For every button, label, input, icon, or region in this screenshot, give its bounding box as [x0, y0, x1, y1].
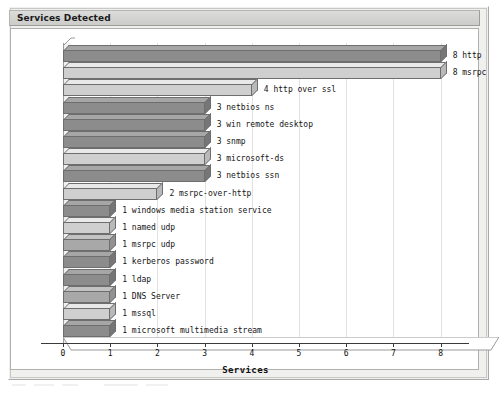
bar-side-facet	[110, 250, 116, 268]
bar-value-label: 3 snmp	[217, 136, 246, 148]
bar-row[interactable]: 3 netbios ns	[63, 97, 463, 114]
x-tick-label-6: 6	[336, 348, 356, 359]
bar-row[interactable]: 1 microsoft multimedia stream	[63, 320, 463, 337]
bar-value-label: 2 msrpc-over-http	[169, 188, 251, 200]
bar[interactable]	[63, 320, 110, 332]
page-title: Services Detected	[17, 12, 111, 25]
x-tick-6	[346, 343, 347, 347]
bar-value-label: 8 msrpc	[453, 67, 487, 79]
bar-front-facet	[63, 308, 110, 320]
bar[interactable]	[63, 183, 157, 195]
bar-value-label: 3 netbios ssn	[217, 170, 280, 182]
bar-front-facet	[63, 170, 205, 182]
bar[interactable]	[63, 45, 441, 57]
bar-value-label: 1 ldap	[122, 274, 151, 286]
bar-row[interactable]: 2 msrpc-over-http	[63, 183, 463, 200]
x-tick-label-3: 3	[195, 348, 215, 359]
bar-front-facet	[63, 50, 441, 62]
plot-area: 8 http8 msrpc4 http over ssl3 netbios ns…	[41, 37, 469, 347]
bar-value-label: 3 microsoft-ds	[217, 153, 284, 165]
bar[interactable]	[63, 286, 110, 298]
bar-value-label: 1 microsoft multimedia stream	[122, 325, 262, 337]
x-tick-2	[157, 343, 158, 347]
bar-value-label: 3 win remote desktop	[217, 119, 313, 131]
bar[interactable]	[63, 200, 110, 212]
bar-front-facet	[63, 205, 110, 217]
x-tick-label-5: 5	[289, 348, 309, 359]
bar[interactable]	[63, 269, 110, 281]
x-tick-label-7: 7	[383, 348, 403, 359]
bar-value-label: 4 http over ssl	[264, 84, 336, 96]
bar-front-facet	[63, 291, 110, 303]
bar-value-label: 1 named udp	[122, 222, 175, 234]
bar-row[interactable]: 3 win remote desktop	[63, 114, 463, 131]
bar[interactable]	[63, 148, 205, 160]
bar-front-facet	[63, 119, 205, 131]
bar-row[interactable]: 3 microsoft-ds	[63, 148, 463, 165]
x-tick-0	[63, 343, 64, 347]
x-tick-3	[205, 343, 206, 347]
bar-front-facet	[63, 188, 157, 200]
bar-value-label: 1 kerberos password	[122, 256, 214, 268]
bar[interactable]	[63, 234, 110, 246]
bar[interactable]	[63, 62, 441, 74]
bar-row[interactable]: 1 ldap	[63, 269, 463, 286]
bar-row[interactable]: 1 msrpc udp	[63, 234, 463, 251]
bar[interactable]	[63, 217, 110, 229]
x-tick-7	[393, 343, 394, 347]
bar-front-facet	[63, 136, 205, 148]
bar-row[interactable]: 4 http over ssl	[63, 79, 463, 96]
x-axis-title: Services	[11, 365, 480, 375]
bar-front-facet	[63, 239, 110, 251]
bar-front-facet	[63, 222, 110, 234]
x-tick-label-4: 4	[242, 348, 262, 359]
bar-row[interactable]: 8 http	[63, 45, 463, 62]
bar-value-label: 1 mssql	[122, 308, 156, 320]
bar-row[interactable]: 1 kerberos password	[63, 251, 463, 268]
x-tick-4	[252, 343, 253, 347]
bar-value-label: 8 http	[453, 50, 482, 62]
bar-value-label: 1 windows media station service	[122, 205, 271, 217]
bar-front-facet	[63, 102, 205, 114]
bar[interactable]	[63, 251, 110, 263]
x-tick-label-0: 0	[53, 348, 73, 359]
bar-front-facet	[63, 153, 205, 165]
x-tick-label-8: 8	[431, 348, 451, 359]
x-tick-5	[299, 343, 300, 347]
bar[interactable]	[63, 97, 205, 109]
bar-front-facet	[63, 274, 110, 286]
panel-titlebar: Services Detected	[9, 10, 480, 26]
x-axis-line	[41, 343, 469, 344]
bar[interactable]	[63, 79, 252, 91]
x-tick-label-1: 1	[100, 348, 120, 359]
bar[interactable]	[63, 165, 205, 177]
bar[interactable]	[63, 114, 205, 126]
bar-row[interactable]: 3 netbios ssn	[63, 165, 463, 182]
chart-card: 8 http8 msrpc4 http over ssl3 netbios ns…	[10, 28, 479, 370]
bar-row[interactable]: 1 windows media station service	[63, 200, 463, 217]
bar-value-label: 1 DNS Server	[122, 291, 180, 303]
bar-row[interactable]: 1 DNS Server	[63, 286, 463, 303]
bar[interactable]	[63, 303, 110, 315]
x-tick-label-2: 2	[147, 348, 167, 359]
bar-row[interactable]: 8 msrpc	[63, 62, 463, 79]
bar-value-label: 1 msrpc udp	[122, 239, 175, 251]
bar-front-facet	[63, 67, 441, 79]
clipped-edge-artifact	[8, 382, 208, 389]
bar[interactable]	[63, 131, 205, 143]
bar-value-label: 3 netbios ns	[217, 102, 275, 114]
x-tick-8	[441, 343, 442, 347]
bar-row[interactable]: 1 mssql	[63, 303, 463, 320]
bar-front-facet	[63, 256, 110, 268]
bar-front-facet	[63, 84, 252, 96]
bar-front-facet	[63, 325, 110, 337]
services-detected-window: Services Detected 8 http8 msrpc4 http ov…	[0, 0, 504, 395]
bar-row[interactable]: 3 snmp	[63, 131, 463, 148]
x-tick-1	[110, 343, 111, 347]
bar-row[interactable]: 1 named udp	[63, 217, 463, 234]
